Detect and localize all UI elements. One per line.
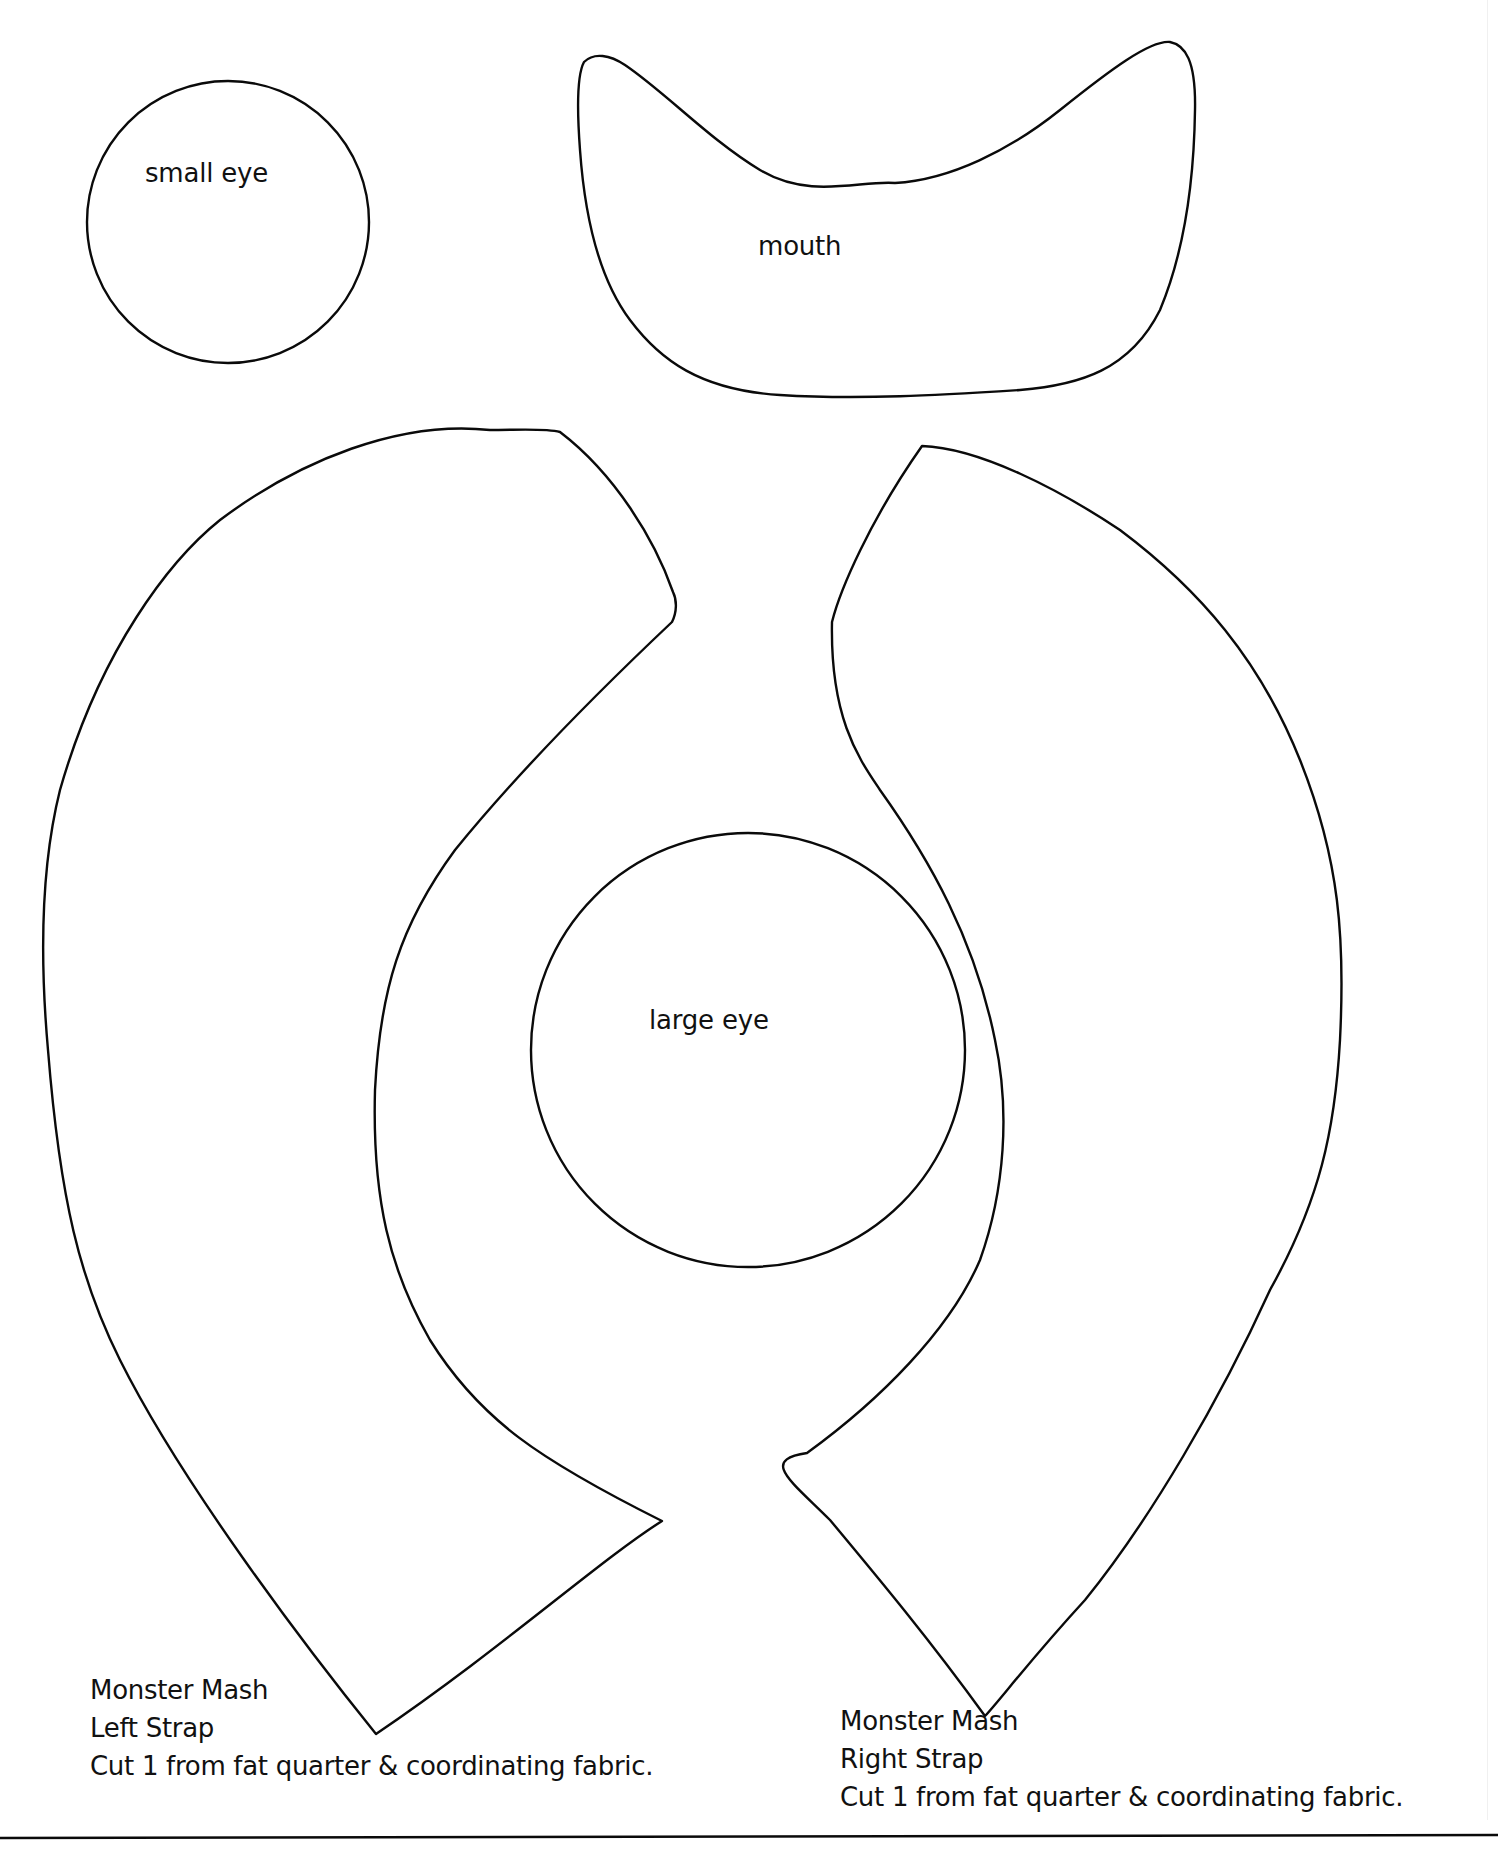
right-strap-caption-piece: Right Strap [840, 1740, 1403, 1778]
left-strap-caption: Monster Mash Left Strap Cut 1 from fat q… [90, 1671, 653, 1785]
right-strap-outline [783, 446, 1342, 1716]
small-eye-label: small eye [145, 158, 268, 188]
page-edge-shadow [1487, 0, 1498, 1820]
bottom-rule [0, 1835, 1498, 1838]
pattern-shapes [0, 0, 1498, 1864]
left-strap-caption-title: Monster Mash [90, 1671, 653, 1709]
left-strap-caption-piece: Left Strap [90, 1709, 653, 1747]
large-eye-label: large eye [649, 1005, 769, 1035]
right-strap-caption-instructions: Cut 1 from fat quarter & coordinating fa… [840, 1778, 1403, 1816]
small-eye-outline [87, 81, 369, 363]
left-strap-caption-instructions: Cut 1 from fat quarter & coordinating fa… [90, 1747, 653, 1785]
right-strap-caption: Monster Mash Right Strap Cut 1 from fat … [840, 1702, 1403, 1816]
left-strap-outline [43, 428, 676, 1734]
mouth-outline [578, 42, 1195, 397]
right-strap-caption-title: Monster Mash [840, 1702, 1403, 1740]
pattern-page: small eye mouth large eye Monster Mash L… [0, 0, 1498, 1864]
mouth-label: mouth [758, 231, 841, 261]
large-eye-outline [531, 833, 965, 1267]
